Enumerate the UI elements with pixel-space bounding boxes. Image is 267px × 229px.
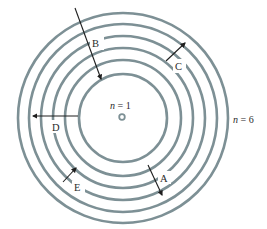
label-a: A bbox=[160, 173, 168, 184]
label-b: B bbox=[92, 38, 99, 49]
ring-level-2 bbox=[79, 74, 167, 162]
arrow-c bbox=[166, 43, 185, 61]
bohr-diagram: B C D E A n = 1 n = 6 bbox=[0, 0, 267, 229]
label-e: E bbox=[74, 182, 80, 193]
energy-level-rings bbox=[18, 13, 228, 223]
ring-level-6 bbox=[29, 24, 217, 212]
ring-level-3 bbox=[65, 60, 181, 176]
ring-level-7 bbox=[18, 13, 228, 223]
ring-level-4 bbox=[53, 48, 193, 188]
label-d: D bbox=[52, 122, 60, 133]
level-label-inner: n = 1 bbox=[110, 100, 131, 111]
label-c: C bbox=[175, 61, 182, 72]
level-label-outer: n = 6 bbox=[233, 114, 254, 125]
nucleus-icon bbox=[119, 114, 125, 120]
